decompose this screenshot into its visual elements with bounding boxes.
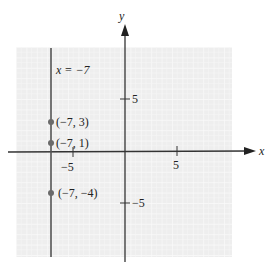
x-axis-arrow-icon <box>244 147 256 155</box>
tick-y-5-label: 5 <box>132 92 138 106</box>
tick-y-neg5-label: −5 <box>132 196 145 210</box>
point-neg7-1-label: (−7, 1) <box>56 136 89 150</box>
line-equation-label: x = −7 <box>55 63 91 77</box>
y-axis-label: y <box>118 9 125 23</box>
point-neg7-3 <box>48 119 54 125</box>
coordinate-plane: x y −5 5 5 −5 x = −7 (−7, 3) (−7, 1) (−7… <box>0 0 278 270</box>
point-neg7-3-label: (−7, 3) <box>56 115 89 129</box>
tick-x-neg5-label: −5 <box>61 160 74 174</box>
point-neg7-neg4-label: (−7, −4) <box>58 186 98 200</box>
point-neg7-1 <box>48 140 54 146</box>
x-axis-label: x <box>258 144 265 158</box>
point-neg7-neg4 <box>48 190 54 196</box>
tick-x-5-label: 5 <box>173 158 179 172</box>
y-axis-arrow-icon <box>121 24 129 36</box>
